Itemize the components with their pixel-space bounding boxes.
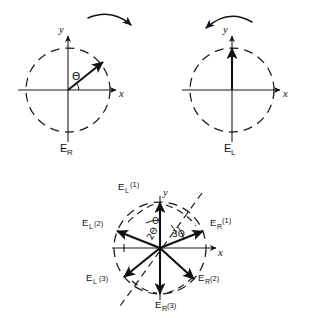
rotation-arrow-counterclockwise (206, 16, 252, 28)
label-ER2-arg: (2) (210, 274, 220, 283)
caption-left-circular: E L (224, 142, 236, 157)
y-axis-label-composite: y (162, 187, 168, 198)
angle-label-2theta: 2Θ (145, 225, 160, 241)
label-ER3: E R (3) (155, 299, 177, 312)
x-axis-label-left: x (282, 88, 288, 99)
label-ER1: E R (1) (210, 216, 232, 230)
figure-container: x y Θ E R x y E L (0, 0, 316, 318)
label-EL2: E L (2) (82, 217, 104, 230)
label-ER3-arg: (3) (167, 301, 177, 310)
label-ER1-arg: (1) (222, 216, 232, 225)
label-ER2-base: E (198, 272, 204, 283)
label-EL2-base: E (82, 217, 88, 228)
label-EL1-sub: L (125, 187, 129, 194)
label-EL1-base: E (118, 181, 124, 192)
tip-arc-lower-right (167, 278, 192, 293)
caption-right-circular: E R (60, 142, 73, 157)
panel-right-circular: x y Θ E R (18, 14, 131, 157)
polarization-figure: x y Θ E R x y E L (0, 0, 316, 318)
label-ER2: E R (2) (198, 272, 220, 285)
theta-arc-right (77, 83, 80, 90)
label-EL1-arg: (1) (130, 180, 140, 189)
caption-sub-right: R (67, 148, 73, 157)
panel-composite: x y Θ 2Θ 3Θ E L (1) E R (1) E L (2) (82, 180, 232, 312)
angle-label-3theta: 3Θ (172, 229, 185, 239)
label-EL2-arg: (2) (94, 219, 104, 228)
y-axis-label-right: y (58, 24, 64, 35)
label-ER3-base: E (155, 299, 161, 310)
angle-label-theta: Θ (152, 216, 159, 226)
vector-EL3 (124, 248, 160, 277)
vector-ER2 (160, 248, 194, 279)
label-EL3-base: E (86, 272, 92, 283)
label-EL3-arg: (3) (99, 274, 109, 283)
label-EL3: E L (3) (86, 272, 109, 285)
label-EL2-sub: L (89, 223, 93, 230)
theta-label-right: Θ (72, 70, 80, 82)
label-EL3-sub: L (93, 278, 97, 285)
y-axis-label-left: y (222, 24, 228, 35)
label-EL1: E L (1) (118, 180, 140, 194)
panel-left-circular: x y E L (182, 16, 288, 157)
x-axis-label-right: x (118, 88, 124, 99)
x-axis-label-composite: x (217, 247, 223, 258)
label-ER1-base: E (210, 217, 216, 228)
caption-sub-left: L (231, 148, 236, 157)
rotation-arrow-clockwise (88, 14, 131, 25)
